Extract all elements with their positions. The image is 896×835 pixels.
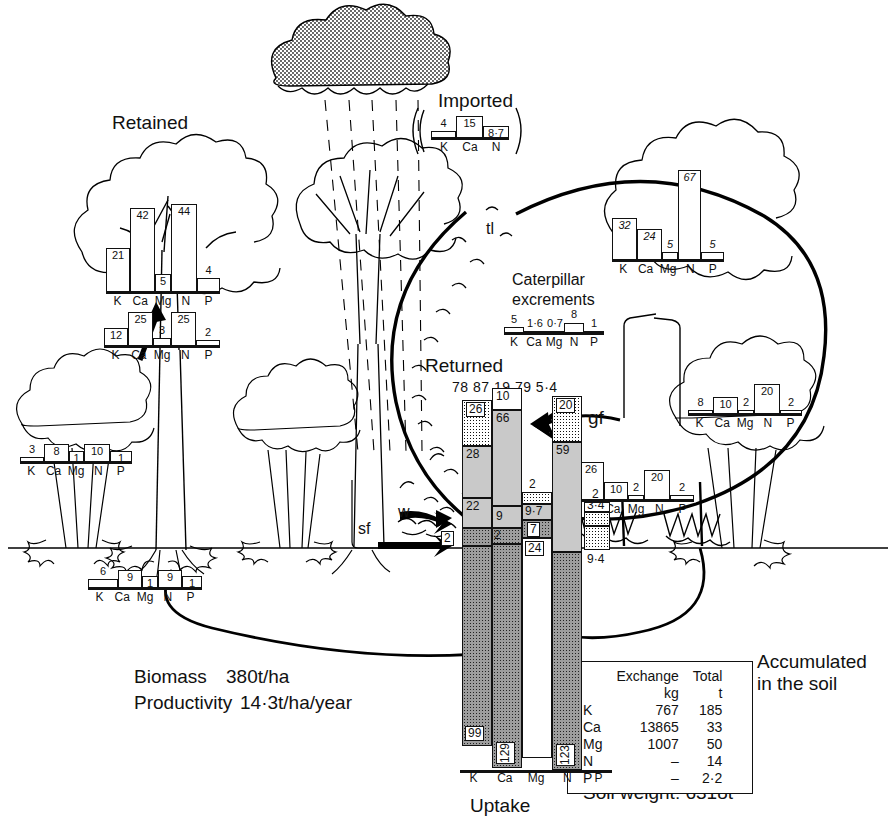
label-retained: Retained — [112, 112, 188, 134]
cat-K: K — [88, 591, 111, 604]
bar-value-P: 5 — [709, 239, 715, 250]
cat-Ca: Ca — [129, 295, 152, 308]
bar-value-Mg: 5 — [160, 276, 166, 287]
chart-category-labels: K Ca N — [431, 141, 509, 154]
cat-Ca: Ca — [111, 591, 134, 604]
segment-litterfall: 59 — [552, 442, 582, 552]
segment-uptake: 9·4 — [584, 526, 610, 550]
biomass-label: Biomass — [134, 666, 207, 688]
cat-N: N — [156, 591, 179, 604]
bar-value-P: 4 — [205, 265, 211, 276]
segment-other: 2 — [462, 528, 492, 546]
cat-P: P — [197, 295, 220, 308]
bar-value-K: 8 — [697, 397, 703, 408]
soil-unit-total: t — [686, 685, 730, 702]
soil-row-exchange: 767 — [609, 702, 685, 719]
soil-row-total: 14 — [686, 753, 730, 770]
segment-value: 2 — [494, 529, 501, 542]
segment-value: 66 — [496, 412, 509, 425]
right-connectors — [624, 314, 680, 426]
bar-value-N: 20 — [651, 472, 663, 483]
tree-center-bare — [296, 138, 462, 546]
bar-value-K: 5 — [511, 314, 517, 325]
stack-column-P: 2 3·4 9·4 — [584, 502, 610, 550]
bar-value-Ca: 42 — [136, 210, 148, 221]
cat-P: P — [110, 465, 132, 478]
stack-column-K: 26 28 22 2 99 — [462, 400, 492, 746]
rain-cloud-icon — [272, 4, 451, 94]
segment-value: 59 — [556, 444, 569, 457]
bar-value-Mg: 2 — [743, 397, 749, 408]
bar-value-Ca: 1·6 — [527, 318, 543, 329]
cat-N: N — [756, 417, 779, 430]
bar-value-P: 2 — [788, 397, 794, 408]
bar-value-Ca: 10 — [719, 399, 731, 410]
segment-throughfall: 10 — [492, 388, 522, 410]
segment-value: 7 — [527, 522, 540, 537]
cat-N: N — [648, 503, 671, 516]
cat-N: N — [174, 295, 197, 308]
cat-K: K — [20, 465, 42, 478]
stack-column-Mg: 2 9·7 7 24 — [522, 492, 552, 758]
chart-roots-left: 6 9 1 9 1 K Ca Mg N P — [88, 566, 202, 590]
label-accumulated-1: Accumulated — [757, 651, 867, 673]
cat-K: K — [612, 263, 634, 276]
cat-P: P — [671, 503, 694, 516]
cat-P: P — [702, 263, 724, 276]
chart-crown-right: 32 24 5 67 5 K Ca Mg N P — [612, 168, 724, 262]
soil-unit-exchange: kg — [609, 685, 685, 702]
cat-K: K — [458, 772, 489, 785]
cat-N: N — [87, 465, 109, 478]
tree-center-roots — [332, 550, 390, 574]
bar-N: 67 — [678, 170, 701, 262]
segment-stemflow: 22 — [462, 498, 492, 528]
bar-value-Ca: 9 — [127, 572, 133, 583]
stack-column-Ca: 10 66 9 2 129 — [492, 388, 522, 768]
chart-shrub-right: 8 10 2 20 2 K Ca Mg N P — [688, 382, 802, 416]
segment-litterfall: 28 — [462, 446, 492, 498]
segment-uptake: 99 — [462, 546, 492, 746]
bar-Ca: 25 — [128, 312, 153, 348]
segment-value: 2 — [529, 478, 536, 491]
label-excrements: excrements — [512, 291, 595, 309]
bar-K: 32 — [612, 218, 637, 262]
nutrient-cycle-diagram: Retained Imported Returned Uptake Caterp… — [0, 0, 896, 835]
segment-value: 10 — [496, 390, 509, 403]
biomass-value: 380t/ha — [226, 666, 289, 688]
segment-value: 2 — [441, 531, 454, 546]
cat-P: P — [779, 417, 802, 430]
bar-K: 21 — [106, 248, 130, 294]
cat-Mg: Mg — [624, 503, 647, 516]
bar-value-N: 44 — [178, 206, 190, 217]
central-category-labels: K Ca Mg N P — [458, 772, 614, 785]
chart-category-labels: K Ca Mg N P — [20, 465, 132, 478]
cat-N: N — [552, 772, 583, 785]
cat-Mg: Mg — [150, 349, 173, 362]
label-tl: tl — [486, 220, 494, 238]
tree-center-understorey — [234, 359, 361, 564]
segment-throughfall: 20 — [552, 396, 582, 442]
segment-value: 24 — [525, 541, 544, 556]
productivity-value: 14·3t/ha/year — [240, 692, 352, 714]
bar-value-N: 67 — [683, 172, 695, 183]
cat-Ca: Ca — [457, 141, 483, 154]
segment-value: 123 — [556, 744, 575, 766]
segment-value: 22 — [466, 500, 479, 513]
bar-value-K: 21 — [112, 250, 124, 261]
chart-imported: 4 15 8·7 K Ca N — [431, 114, 509, 140]
soil-row-total: 2·2 — [686, 770, 730, 787]
segment-value: 9·7 — [525, 505, 542, 518]
bar-value-Ca: 25 — [134, 314, 146, 325]
segment-value: 129 — [496, 742, 515, 764]
bar-value-K: 12 — [110, 330, 122, 341]
cat-Mg: Mg — [544, 336, 564, 349]
tree-right-understorey — [670, 336, 824, 568]
stack-column-N: 20 59 123 — [552, 396, 582, 770]
chart-category-labels: K Ca Mg N P — [504, 336, 604, 349]
bar-N: 44 — [171, 204, 197, 294]
cat-K: K — [504, 336, 524, 349]
table-row: N – 14 — [576, 753, 729, 770]
bar-value-P: 2 — [205, 327, 211, 338]
bar-value-Ca: 15 — [463, 118, 475, 129]
chart-category-labels: K Ca Mg N P — [688, 417, 802, 430]
